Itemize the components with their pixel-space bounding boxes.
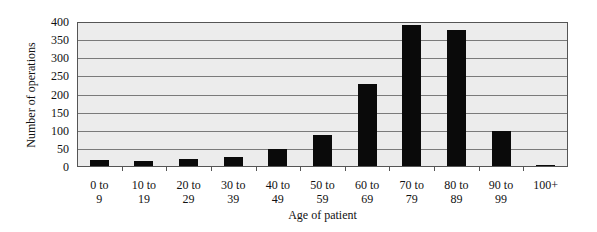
- gridline: [78, 76, 567, 77]
- x-tick-label: 30 to39: [211, 178, 255, 206]
- y-tick-label: 0: [63, 160, 69, 175]
- bar-chart: Number of operations 0501001502002503003…: [0, 0, 597, 232]
- gridline: [78, 58, 567, 59]
- gridline: [78, 113, 567, 114]
- y-axis-label-container: Number of operations: [22, 22, 40, 168]
- bar: [90, 160, 109, 166]
- bar: [402, 25, 421, 166]
- x-tick-label: 100+: [524, 178, 568, 206]
- x-tick-mark: [345, 167, 346, 171]
- x-tick-mark: [389, 167, 390, 171]
- x-axis-label: Age of patient: [77, 208, 568, 223]
- y-tick-label: 200: [51, 87, 69, 102]
- x-tick-label: 10 to19: [122, 178, 166, 206]
- bar: [536, 165, 555, 166]
- bar: [134, 161, 153, 166]
- bar: [268, 149, 287, 166]
- gridline: [78, 40, 567, 41]
- bar: [179, 159, 198, 166]
- x-tick-mark: [523, 167, 524, 171]
- bar: [313, 135, 332, 166]
- y-tick-label: 350: [51, 33, 69, 48]
- y-tick-label: 250: [51, 69, 69, 84]
- x-tick-label: 20 to29: [167, 178, 211, 206]
- x-tick-label: 40 to49: [256, 178, 300, 206]
- x-tick-label: 70 to79: [390, 178, 434, 206]
- x-tick-label: 90 to99: [479, 178, 523, 206]
- y-tick-label: 300: [51, 51, 69, 66]
- y-tick-label: 100: [51, 123, 69, 138]
- plot-area: [77, 22, 568, 167]
- x-tick-label: 0 to9: [77, 178, 121, 206]
- bar: [224, 157, 243, 166]
- y-tick-label: 400: [51, 15, 69, 30]
- bar: [492, 131, 511, 166]
- y-tick-label: 50: [57, 141, 69, 156]
- x-tick-mark: [434, 167, 435, 171]
- x-tick-mark: [300, 167, 301, 171]
- x-tick-mark: [256, 167, 257, 171]
- x-tick-mark: [122, 167, 123, 171]
- y-axis-label: Number of operations: [24, 42, 39, 147]
- x-tick-mark: [211, 167, 212, 171]
- x-tick-label: 50 to59: [301, 178, 345, 206]
- x-tick-label: 80 to89: [434, 178, 478, 206]
- bar: [447, 30, 466, 166]
- x-tick-mark: [166, 167, 167, 171]
- x-tick-label: 60 to69: [345, 178, 389, 206]
- gridline: [78, 95, 567, 96]
- bar: [358, 84, 377, 166]
- x-tick-mark: [479, 167, 480, 171]
- y-tick-label: 150: [51, 105, 69, 120]
